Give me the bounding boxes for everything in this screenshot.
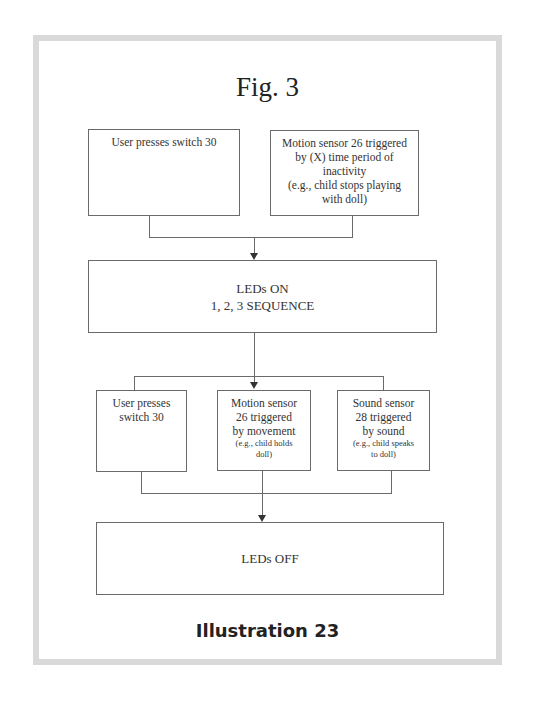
box-text: 1, 2, 3 SEQUENCE <box>211 297 315 314</box>
box-text: inactivity <box>271 164 418 178</box>
box-note: to doll) <box>338 449 429 460</box>
connector-line <box>134 376 135 390</box>
box-text: by (X) time period of <box>271 150 418 164</box>
box-motion-sensor-inactivity: Motion sensor 26 triggered by (X) time p… <box>270 130 419 216</box>
arrow-down-icon <box>250 382 258 389</box>
box-leds-off: LEDs OFF <box>96 522 444 595</box>
box-note: doll) <box>218 449 310 460</box>
connector-line <box>141 472 142 493</box>
box-text: Sound sensor <box>338 396 429 410</box>
box-text: by movement <box>218 424 310 438</box>
connector-line <box>149 237 353 238</box>
connector-line <box>254 237 255 254</box>
box-text: (e.g., child stops playing <box>271 178 418 192</box>
figure-title: Fig. 3 <box>0 72 535 103</box>
box-text: Motion sensor <box>218 396 310 410</box>
connector-line <box>383 376 384 390</box>
box-note: (e.g., child holds <box>218 438 310 449</box>
box-text: by sound <box>338 424 429 438</box>
box-leds-on: LEDs ON 1, 2, 3 SEQUENCE <box>88 260 437 333</box>
illustration-caption: Illustration 23 <box>0 620 535 641</box>
connector-line <box>134 376 384 377</box>
box-text: LEDs ON <box>236 280 288 297</box>
box-text: switch 30 <box>97 410 186 424</box>
box-note: (e.g., child speaks <box>338 438 429 449</box>
box-text: 26 triggered <box>218 410 310 424</box>
box-text: LEDs OFF <box>241 550 298 567</box>
box-text: Motion sensor 26 triggered <box>271 136 418 150</box>
box-text: 28 triggered <box>338 410 429 424</box>
connector-line <box>141 493 392 494</box>
box-user-presses-switch-on: User presses switch 30 <box>88 129 240 216</box>
box-motion-sensor-movement: Motion sensor 26 triggered by movement (… <box>217 390 311 471</box>
connector-line <box>149 216 150 238</box>
box-text: User presses switch 30 <box>89 135 239 149</box>
connector-line <box>262 471 263 516</box>
box-user-presses-switch-off: User presses switch 30 <box>96 390 187 472</box>
arrow-down-icon <box>258 515 266 522</box>
arrow-down-icon <box>250 253 258 260</box>
box-sound-sensor: Sound sensor 28 triggered by sound (e.g.… <box>337 390 430 471</box>
connector-line <box>352 216 353 238</box>
connector-line <box>391 471 392 493</box>
box-text: User presses <box>97 396 186 410</box>
box-text: with doll) <box>271 192 418 206</box>
